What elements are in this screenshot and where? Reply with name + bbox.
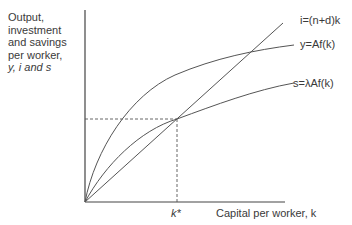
steady-state-k-label: k*: [171, 207, 181, 219]
output-curve: [85, 45, 294, 202]
investment-line-label: i=(n+d)k: [300, 14, 340, 26]
x-axis-label: Capital per worker, k: [216, 207, 316, 219]
savings-curve: [85, 83, 294, 202]
investment-line: [85, 23, 283, 202]
output-curve-label: y=Af(k): [300, 38, 335, 50]
savings-curve-label: s=λAf(k): [293, 77, 334, 89]
solow-diagram: [0, 0, 352, 225]
